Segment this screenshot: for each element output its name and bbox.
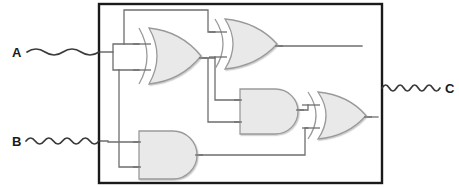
- circuit-svg: ABC: [0, 0, 459, 187]
- circuit-diagram-page: ABC: [0, 0, 459, 187]
- and-gate-body: [139, 131, 197, 179]
- port-label-c: C: [445, 81, 455, 96]
- and-gate-body: [240, 89, 298, 134]
- port-label-b: B: [12, 134, 21, 149]
- port-label-a: A: [12, 45, 22, 60]
